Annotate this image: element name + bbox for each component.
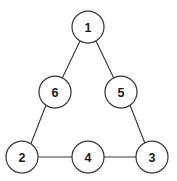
node-circle-1[interactable] — [72, 11, 104, 43]
node-circle-3[interactable] — [136, 141, 168, 173]
graph-node-2[interactable]: 2 — [6, 141, 38, 173]
graph-node-3[interactable]: 3 — [136, 141, 168, 173]
node-circle-2[interactable] — [6, 141, 38, 173]
node-circle-6[interactable] — [39, 76, 71, 108]
graph-edge-n6-n2 — [31, 105, 46, 144]
graph-edge-n1-n5 — [96, 41, 114, 78]
graph-edge-n5-n3 — [130, 105, 145, 144]
graph-edge-n1-n6 — [63, 41, 81, 78]
graph-canvas: 123456 — [0, 0, 177, 181]
graph-node-5[interactable]: 5 — [105, 76, 137, 108]
graph-node-4[interactable]: 4 — [72, 141, 104, 173]
node-circle-4[interactable] — [72, 141, 104, 173]
graph-diagram: 123456 — [0, 0, 177, 181]
node-circle-5[interactable] — [105, 76, 137, 108]
graph-node-6[interactable]: 6 — [39, 76, 71, 108]
graph-node-1[interactable]: 1 — [72, 11, 104, 43]
nodes-group: 123456 — [6, 11, 168, 173]
